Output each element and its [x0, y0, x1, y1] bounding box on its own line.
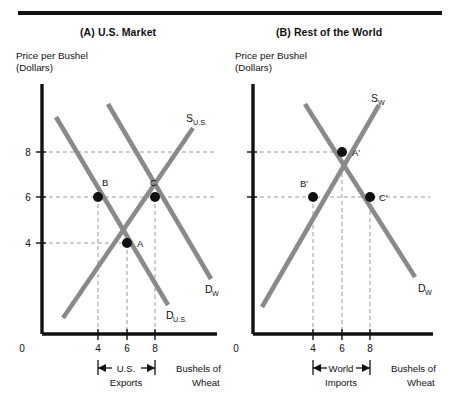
demand-world-label-b: D W	[418, 282, 432, 297]
panel-a-ytick-label-8: 8	[25, 147, 31, 158]
panel-a-bracket-left-arrow	[98, 364, 106, 372]
panel-b-bracket-left-arrow	[313, 364, 321, 372]
panel-b-origin-label: 0	[233, 343, 239, 354]
panel-a-origin-label: 0	[19, 343, 25, 354]
panel-a-ytick-label-6: 6	[25, 192, 31, 203]
panel-a-bracket-label-line2: Exports	[110, 377, 143, 388]
panel-a-point-A	[122, 238, 132, 248]
panel-a-curves	[56, 104, 211, 318]
panel-a-x-axis-label-line2: Wheat	[192, 377, 220, 388]
demand-world-label-b-sub: W	[425, 288, 432, 297]
panel-b-curves	[262, 104, 415, 307]
panel-b-chart: 4 6 8 0 A′ B′ C′ S W D W	[233, 84, 436, 388]
panel-b-xtick-label-6: 6	[339, 343, 345, 354]
panel-a-point-label-A: A	[137, 238, 144, 249]
demand-world-label-a: D W	[205, 283, 219, 298]
supply-us-curve	[63, 128, 193, 318]
panel-a-bracket-label-line1: U.S.	[117, 363, 136, 374]
panel-b-bracket-label-line2: Imports	[325, 377, 357, 388]
demand-us-label: D U.S.	[166, 309, 187, 324]
supply-world-label-sub: W	[378, 98, 385, 107]
demand-us-label-sub: U.S.	[173, 315, 187, 324]
panel-a-point-label-C: C	[150, 177, 157, 188]
economics-figure: (A) U.S. Market (B) Rest of the World Pr…	[0, 0, 457, 404]
panel-a-bracket-right-arrow	[147, 364, 155, 372]
supply-world-curve	[262, 105, 379, 307]
panel-a-point-B	[93, 192, 103, 202]
panel-b-point-label-B-prime: B′	[300, 178, 308, 189]
panel-b-x-axis-label-line1: Bushels of	[391, 363, 436, 374]
supply-us-label-sub: U.S.	[193, 118, 207, 127]
charts-canvas: 8 6 4 4 6 8 0 A B C S U.S. D W	[0, 0, 457, 404]
panel-a-xtick-label-4: 4	[95, 343, 101, 354]
demand-world-curve-b	[305, 104, 415, 277]
panel-b-point-C-prime	[365, 192, 375, 202]
panel-a-ytick-label-4: 4	[25, 238, 31, 249]
panel-b-bracket-label-line1: World	[329, 363, 354, 374]
panel-b-point-label-A-prime: A′	[352, 147, 360, 158]
panel-b-axes	[247, 84, 433, 340]
supply-us-label: S U.S.	[186, 112, 207, 127]
panel-a-xtick-label-8: 8	[152, 343, 158, 354]
panel-b-x-axis-label-line2: Wheat	[407, 377, 435, 388]
panel-b-point-A-prime	[337, 147, 347, 157]
panel-b-xtick-label-4: 4	[310, 343, 316, 354]
panel-a-point-label-B: B	[102, 177, 108, 188]
panel-a-point-C	[150, 192, 160, 202]
demand-us-curve	[56, 117, 168, 305]
demand-world-label-a-sub: W	[212, 289, 219, 298]
supply-us-label-base: S	[186, 112, 193, 124]
panel-a-chart: 8 6 4 4 6 8 0 A B C S U.S. D W	[19, 84, 221, 388]
panel-b-bracket-right-arrow	[362, 364, 370, 372]
panel-b-point-label-C-prime: C′	[379, 192, 388, 203]
panel-b-xtick-label-8: 8	[367, 343, 373, 354]
panel-a-x-axis-label-line1: Bushels of	[176, 363, 221, 374]
panel-b-point-B-prime	[308, 192, 318, 202]
supply-world-label-base: S	[371, 92, 378, 104]
panel-a-xtick-label-6: 6	[124, 343, 130, 354]
supply-world-label: S W	[371, 92, 385, 107]
panel-b-gridlines	[253, 152, 430, 334]
demand-world-curve-a	[108, 104, 211, 279]
